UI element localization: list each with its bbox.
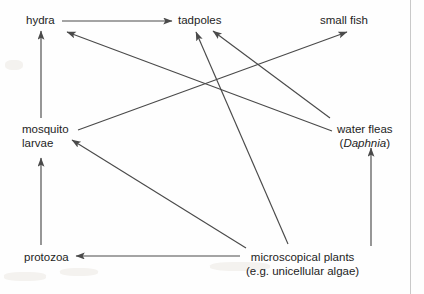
node-label: water fleas [337, 123, 393, 135]
arrow-plants-to-tadpoles [196, 32, 288, 244]
scientific-name: Daphnia [343, 137, 386, 149]
node-microscopical-plants: microscopical plants (e.g. unicellular a… [246, 251, 359, 278]
node-label: tadpoles [178, 14, 221, 26]
node-protozoa: protozoa [24, 251, 69, 265]
node-label: protozoa [24, 251, 69, 263]
node-label: hydra [26, 14, 55, 26]
node-mosquito-larvae: mosquito larvae [22, 123, 69, 150]
arrow-plants-to-mosquito [72, 140, 246, 248]
food-web-diagram: hydra tadpoles small fish mosquito larva… [0, 0, 424, 294]
node-hydra: hydra [26, 14, 55, 28]
node-label-line2: (Daphnia) [337, 137, 393, 151]
node-label: small fish [320, 14, 368, 26]
node-water-fleas: water fleas (Daphnia) [337, 123, 393, 150]
arrow-waterfleas-to-hydra [67, 32, 332, 131]
node-label-line2: larvae [22, 137, 69, 151]
node-label: microscopical plants [251, 251, 355, 263]
node-label-line2: (e.g. unicellular algae) [246, 265, 359, 279]
node-small-fish: small fish [320, 14, 368, 28]
node-tadpoles: tadpoles [178, 14, 221, 28]
node-label: mosquito [22, 123, 69, 135]
arrow-mosquito-to-small_fish [78, 32, 347, 130]
